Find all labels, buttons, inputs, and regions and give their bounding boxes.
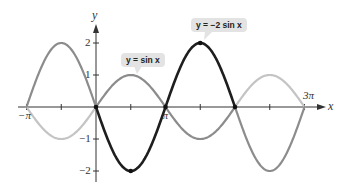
neg2sin-curve-extension-right — [235, 107, 305, 171]
y-tick-label-neg1: −1 — [79, 132, 91, 144]
y-axis-arrow-icon — [93, 24, 99, 33]
callout-sin: y = sin x — [121, 53, 165, 67]
x-tick-label-3pi: 3π — [303, 89, 314, 101]
x-tick-label-neg-pi: −π — [18, 109, 31, 121]
callout-sin-pointer — [134, 66, 142, 74]
y-tick-label-2: 2 — [85, 36, 91, 48]
callout-neg2sin: y = −2 sin x — [191, 18, 247, 32]
marked-point — [163, 105, 168, 110]
y-axis-label: y — [92, 8, 97, 23]
x-tick-label-pi: π — [163, 110, 168, 121]
sin-curve-extension-right — [235, 75, 305, 107]
marked-point — [233, 105, 238, 110]
marked-point — [198, 41, 203, 46]
callout-neg2sin-pointer — [204, 31, 213, 40]
y-tick-label-neg2: −2 — [79, 164, 91, 176]
x-axis-arrow-icon — [317, 104, 326, 110]
axes — [18, 30, 320, 182]
sine-graph — [0, 0, 344, 191]
marked-point — [128, 169, 133, 174]
y-tick-label-1: 1 — [85, 68, 91, 80]
x-axis-label: x — [328, 99, 333, 114]
marked-point — [94, 105, 99, 110]
